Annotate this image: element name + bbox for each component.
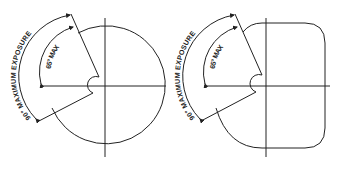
exposure-diagrams: 90° MAXIMUM EXPOSURE 65° MAX 90° MAXIMUM… [0, 0, 340, 171]
inner-arc [203, 27, 237, 84]
inner-arc [39, 27, 73, 84]
outer-arc-label: 90° MAXIMUM EXPOSURE [10, 29, 33, 121]
outer-arc-label: 90° MAXIMUM EXPOSURE [174, 29, 197, 121]
rounded-square-figure: 90° MAXIMUM EXPOSURE 65° MAX [174, 14, 330, 157]
circle-outline [52, 26, 165, 144]
circle-figure: 90° MAXIMUM EXPOSURE 65° MAX [10, 14, 166, 157]
